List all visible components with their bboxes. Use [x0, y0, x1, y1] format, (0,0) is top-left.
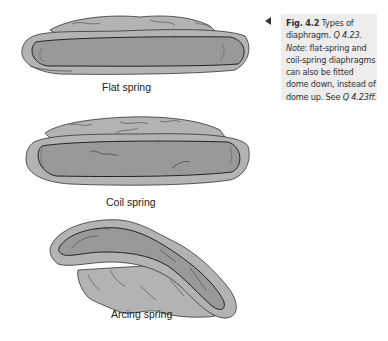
diaphragm-illustrations	[0, 0, 250, 341]
question-reference: Q 4.23.	[333, 30, 361, 40]
figure-number: Fig. 4.2	[286, 18, 319, 28]
coil-spring-illustration	[26, 117, 249, 185]
arcing-spring-label: Arcing spring	[111, 308, 172, 320]
see-reference: Q 4.23ff.	[343, 92, 377, 102]
caption-pointer-icon	[265, 17, 271, 25]
arcing-spring-illustration	[50, 220, 236, 318]
flat-spring-label: Flat spring	[102, 81, 151, 93]
note-label: Note	[286, 43, 305, 53]
flat-spring-illustration	[22, 16, 249, 74]
figure-caption: Fig. 4.2 Types of diaphragm. Q 4.23. Not…	[281, 14, 377, 100]
coil-spring-label: Coil spring	[106, 196, 156, 208]
